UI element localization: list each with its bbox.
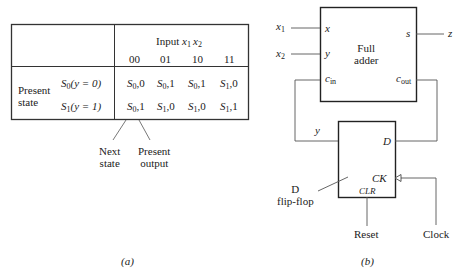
- clock-label: Clock: [423, 228, 449, 240]
- feedback-y-label: y: [315, 124, 320, 136]
- cell-output: ,0: [137, 77, 145, 89]
- row-label-s1: S1(y = 1): [61, 100, 101, 112]
- full-adder-title: Full adder: [354, 42, 378, 66]
- annotation-present-output: Present output: [138, 145, 170, 169]
- cell-output: ,0: [167, 100, 175, 112]
- annotation-line: state: [99, 157, 120, 169]
- fa-port-cin: cin: [325, 72, 336, 84]
- cell-s1-11: S1,1: [220, 100, 238, 112]
- input-sub: 2: [281, 52, 285, 61]
- cell-output: ,1: [137, 100, 145, 112]
- cell-s0-10: S0,1: [188, 77, 206, 89]
- label-line: flip-flop: [277, 195, 314, 207]
- port-sub: in: [330, 77, 336, 86]
- title-line: adder: [354, 54, 378, 66]
- input-x2-label: x2: [276, 47, 285, 59]
- cell-s1-10: S1,0: [188, 100, 206, 112]
- row-header-present: Present: [18, 84, 50, 96]
- state-condition: (y = 0): [71, 77, 102, 89]
- state-condition: (y = 1): [71, 100, 102, 112]
- ff-port-clr: CLR: [359, 186, 376, 196]
- row-header-state: state: [18, 96, 38, 108]
- cell-s1-00: S0,1: [127, 100, 145, 112]
- column-header-10: 10: [192, 53, 203, 65]
- fa-port-x: x: [325, 22, 330, 34]
- cell-s0-00: S0,0: [127, 77, 145, 89]
- cell-s1-01: S1,0: [157, 100, 175, 112]
- annotation-line: Present: [138, 145, 170, 157]
- title-line: Full: [354, 42, 378, 54]
- annotation-next-state: Next state: [99, 145, 120, 169]
- ff-port-ck: CK: [372, 172, 387, 184]
- cell-output: ,1: [198, 77, 206, 89]
- input-var-x1-sub: 1: [187, 40, 191, 49]
- input-var-x2-sub: 2: [198, 40, 202, 49]
- output-z-label: z: [448, 27, 452, 39]
- annotation-line: output: [138, 157, 170, 169]
- cell-output: ,1: [167, 77, 175, 89]
- caption-b: (b): [361, 255, 374, 267]
- diagram-lines: [0, 0, 461, 268]
- column-header-11: 11: [224, 53, 235, 65]
- ff-port-d: D: [383, 135, 391, 147]
- flip-flop-label: D flip-flop: [277, 183, 314, 207]
- annotation-line: Next: [99, 145, 120, 157]
- fa-port-y: y: [325, 47, 330, 59]
- port-sub: out: [401, 77, 411, 86]
- input-x1-label: x1: [276, 20, 285, 32]
- fa-port-s: s: [406, 27, 410, 39]
- caption-a: (a): [121, 255, 134, 267]
- cell-s0-11: S1,0: [220, 77, 238, 89]
- column-header-00: 00: [129, 53, 140, 65]
- input-header-label: Input: [156, 35, 182, 47]
- annotation-pointers: [113, 120, 150, 140]
- input-sub: 1: [281, 25, 285, 34]
- column-header-01: 01: [160, 53, 171, 65]
- row-label-s0: S0(y = 0): [61, 77, 101, 89]
- cell-output: ,0: [198, 100, 206, 112]
- input-header: Input x1 x2: [156, 35, 202, 47]
- cell-output: ,0: [230, 77, 238, 89]
- reset-label: Reset: [354, 228, 378, 240]
- label-line: D: [277, 183, 314, 195]
- fa-port-cout: cout: [396, 72, 411, 84]
- cell-output: ,1: [230, 100, 238, 112]
- cell-s0-01: S0,1: [157, 77, 175, 89]
